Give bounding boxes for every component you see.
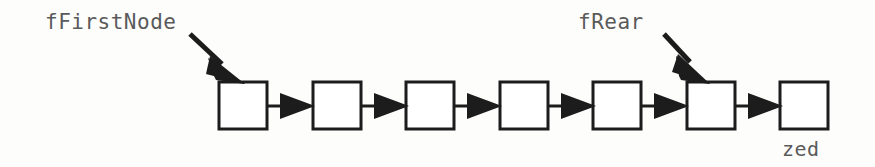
label-zed: zed: [782, 139, 820, 159]
label-rear: fRear: [578, 12, 644, 33]
node-box: [219, 82, 267, 129]
link-arrow: [641, 93, 689, 119]
node-box: [687, 82, 735, 129]
node-box: [406, 82, 454, 129]
node-box: [593, 82, 641, 129]
link-arrow: [454, 93, 502, 119]
link-arrow: [267, 93, 315, 119]
link-arrow: [735, 93, 783, 119]
label-first-node: fFirstNode: [45, 12, 176, 33]
pointer-arrow-first-node: [190, 34, 245, 84]
node-box: [780, 82, 828, 129]
node-box: [313, 82, 361, 129]
linked-list-diagram: fFirstNode fRear zed: [0, 0, 875, 167]
link-arrow: [361, 93, 409, 119]
pointer-arrow-rear: [664, 34, 710, 84]
link-arrow: [548, 93, 596, 119]
node-box: [500, 82, 548, 129]
